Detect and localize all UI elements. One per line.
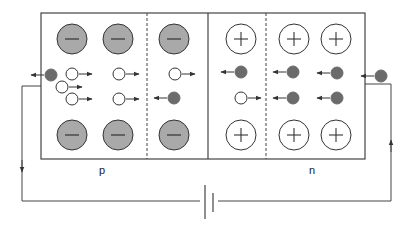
- donor-ion-icon: [321, 24, 351, 54]
- donor-ion-icon: [279, 120, 309, 150]
- donor-ion-icon: [226, 120, 256, 150]
- acceptor-ion-icon: [57, 120, 87, 150]
- donor-ion-icon: [279, 24, 309, 54]
- electron-icon: [31, 69, 57, 81]
- electron-icon: [273, 92, 299, 104]
- hole-icon: [66, 93, 92, 105]
- electron-icon: [221, 66, 247, 78]
- hole-icon: [113, 93, 139, 105]
- semiconductor-block: [41, 13, 365, 159]
- electron-icon: [273, 66, 299, 78]
- acceptor-ion-icon: [103, 120, 133, 150]
- donor-ion-icon: [321, 120, 351, 150]
- acceptor-ion-icon: [159, 24, 189, 54]
- hole-icon: [113, 68, 139, 80]
- hole-icon: [56, 81, 82, 93]
- electron-icon: [154, 92, 180, 104]
- acceptor-ion-icon: [57, 24, 87, 54]
- battery-icon: [200, 185, 218, 219]
- n-region-label: n: [309, 164, 315, 176]
- hole-icon: [66, 68, 92, 80]
- pn-junction-diagram: [0, 0, 410, 227]
- electron-icon: [317, 67, 343, 79]
- hole-icon: [169, 68, 195, 80]
- p-region-label: p: [99, 164, 105, 176]
- donor-ion-icon: [226, 24, 256, 54]
- acceptor-ion-icon: [103, 24, 133, 54]
- hole-icon: [235, 92, 261, 104]
- electron-icon: [317, 92, 343, 104]
- acceptor-ion-icon: [159, 120, 189, 150]
